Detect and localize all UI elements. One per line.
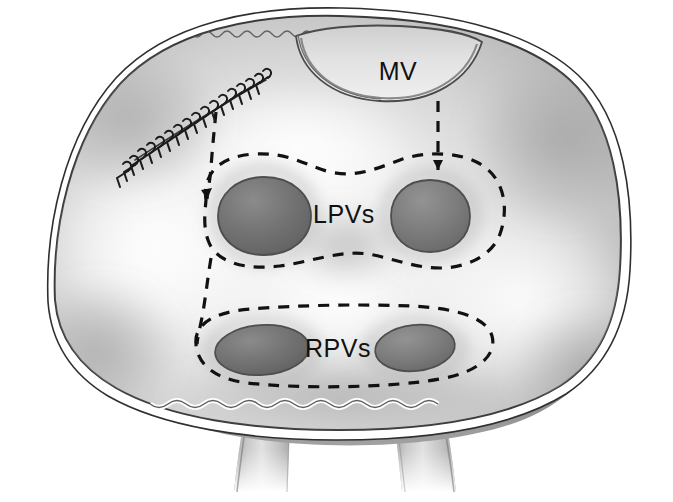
lpv-superior-ostium xyxy=(218,177,311,255)
lpv-inferior-ostium xyxy=(391,180,470,252)
rpvs-label: RPVs xyxy=(305,334,371,362)
illustration-canvas: MV LPVs RPVs xyxy=(0,0,673,502)
left-atrium-illustration: MV LPVs RPVs xyxy=(0,0,673,502)
lpvs-label: LPVs xyxy=(313,200,375,228)
mv-label: MV xyxy=(379,57,418,85)
wall-shading xyxy=(20,45,670,435)
